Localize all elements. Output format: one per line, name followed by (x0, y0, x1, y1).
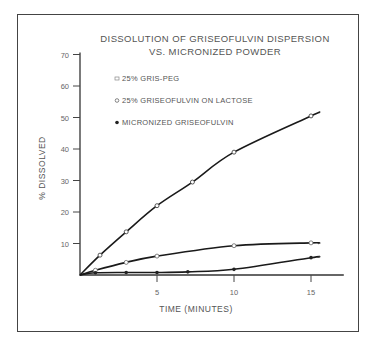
data-point-open (124, 230, 128, 234)
legend: 25% GRIS-PEG25% GRISEOFULVIN ON LACTOSEM… (115, 74, 253, 127)
data-point-filled (94, 271, 98, 275)
data-point-open (124, 260, 128, 264)
legend-label: 25% GRISEOFULVIN ON LACTOSE (122, 96, 253, 105)
y-axis-label: % DISSOLVED (37, 136, 47, 199)
y-tick-label: 70 (61, 51, 69, 60)
legend-label: MICRONIZED GRISEOFULVIN (122, 118, 234, 127)
y-tick-label: 40 (61, 145, 69, 154)
data-point-filled (124, 271, 128, 275)
legend-label: 25% GRIS-PEG (122, 74, 179, 83)
x-axis-label: TIME (MINUTES) (159, 304, 233, 314)
y-tick-label: 60 (61, 82, 69, 91)
legend-open-circle-icon (115, 99, 119, 103)
data-point-open (309, 241, 313, 245)
legend-filled-circle-icon (115, 121, 119, 125)
legend-square-icon (115, 77, 119, 80)
x-tick-label: 15 (307, 288, 315, 297)
y-tick-label: 10 (61, 240, 69, 249)
data-point-open (155, 204, 159, 208)
data-point-filled (232, 268, 236, 272)
series-1 (80, 241, 320, 275)
data-point-filled (309, 256, 313, 260)
series-line (80, 112, 320, 275)
x-tick-label: 5 (155, 288, 159, 297)
data-point-filled (155, 271, 159, 275)
series-line (80, 243, 320, 275)
data-point-open (190, 180, 194, 184)
data-point-open (155, 254, 159, 258)
chart-plot: 1020304050607051015 25% GRIS-PEG25% GRIS… (0, 0, 375, 350)
y-tick-label: 50 (61, 114, 69, 123)
data-point-filled (186, 270, 190, 274)
data-point-open (98, 253, 102, 257)
series-line (80, 257, 320, 275)
data-point-open (232, 244, 236, 248)
data-point-open (309, 114, 313, 118)
series-lines (80, 112, 320, 275)
series-0 (80, 112, 320, 275)
x-tick-label: 10 (230, 288, 238, 297)
data-point-open (232, 150, 236, 154)
y-tick-label: 30 (61, 177, 69, 186)
y-tick-label: 20 (61, 208, 69, 217)
